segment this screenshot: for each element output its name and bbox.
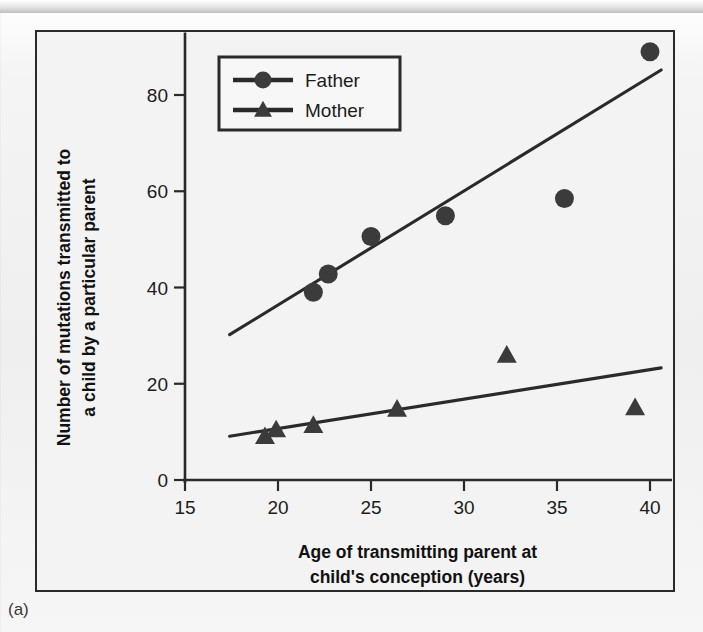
trendline-mother xyxy=(230,368,662,436)
data-point-father-3 xyxy=(436,206,455,225)
y-tick-label-80: 80 xyxy=(147,85,168,106)
x-tick-label-15: 15 xyxy=(174,497,195,518)
x-tick-label-25: 25 xyxy=(360,497,381,518)
y-tick-label-60: 60 xyxy=(147,181,168,202)
x-tick-label-40: 40 xyxy=(639,497,660,518)
legend-marker-father xyxy=(255,72,272,89)
figure-frame: 152025303540020406080Age of transmitting… xyxy=(35,30,675,592)
legend-label-father: Father xyxy=(305,70,361,91)
panel-caption: (a) xyxy=(8,600,29,620)
x-tick-label-20: 20 xyxy=(267,497,288,518)
data-point-mother-5 xyxy=(625,398,645,416)
data-point-father-5 xyxy=(641,42,660,61)
y-axis-title-line1: Number of mutations transmitted to xyxy=(54,149,74,447)
scatter-plot: 152025303540020406080Age of transmitting… xyxy=(37,32,672,589)
data-point-father-0 xyxy=(304,283,323,302)
x-axis-title-line2: child's conception (years) xyxy=(310,567,525,587)
x-tick-label-30: 30 xyxy=(453,497,474,518)
x-tick-label-35: 35 xyxy=(546,497,567,518)
page-edge-shadow xyxy=(0,0,703,13)
data-point-father-4 xyxy=(555,189,574,208)
data-point-father-2 xyxy=(362,227,381,246)
data-point-father-1 xyxy=(319,265,338,284)
y-tick-label-20: 20 xyxy=(147,374,168,395)
y-tick-label-40: 40 xyxy=(147,278,168,299)
x-axis-title-line1: Age of transmitting parent at xyxy=(298,542,537,562)
y-axis-title-line2: a child by a particular parent xyxy=(79,178,99,416)
legend-label-mother: Mother xyxy=(305,100,365,121)
y-tick-label-0: 0 xyxy=(157,470,168,491)
data-point-mother-4 xyxy=(497,345,517,363)
